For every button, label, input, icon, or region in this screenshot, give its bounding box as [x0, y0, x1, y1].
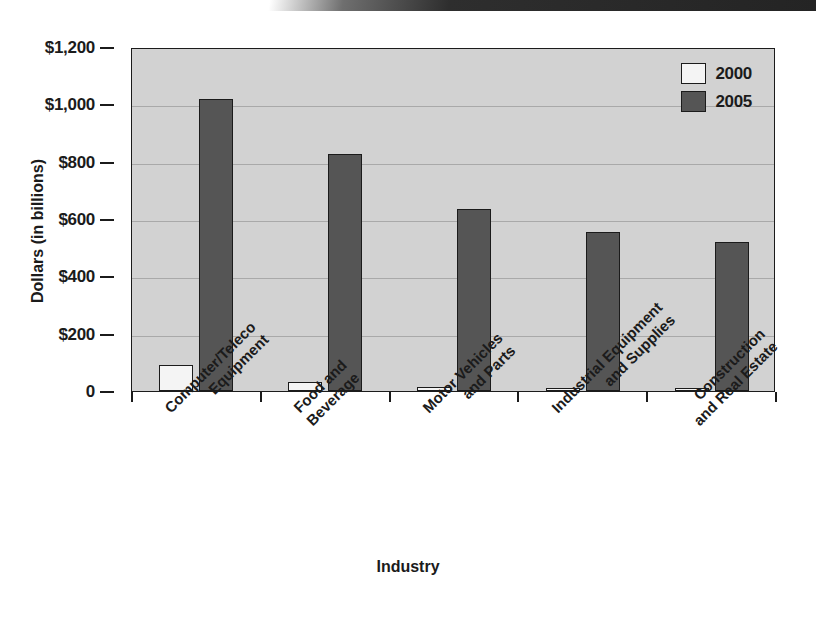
x-axis-title: Industry	[0, 558, 816, 576]
y-tick-label: $1,000	[45, 95, 95, 115]
legend-swatch-2000-icon	[681, 63, 706, 84]
y-tick-mark	[100, 276, 114, 278]
y-tick-label: $1,200	[45, 38, 95, 58]
y-tick-mark	[100, 219, 114, 221]
legend-label-2000: 2000	[715, 64, 752, 84]
x-tick-mark	[260, 392, 262, 402]
legend-item-2000: 2000	[681, 63, 752, 84]
y-tick-label: $800	[58, 153, 95, 173]
y-tick-mark	[100, 47, 114, 49]
y-tick-label: $400	[58, 267, 95, 287]
y-tick-label: 0	[86, 382, 95, 402]
x-tick-mark	[775, 392, 777, 402]
legend: 2000 2005	[681, 63, 752, 112]
y-tick-mark	[100, 104, 114, 106]
bar-2005-2	[328, 154, 362, 391]
x-tick-mark	[389, 392, 391, 402]
y-tick-mark	[100, 334, 114, 336]
y-tick-mark	[100, 162, 114, 164]
legend-label-2005: 2005	[715, 92, 752, 112]
y-tick-label: $200	[58, 325, 95, 345]
y-tick-mark	[100, 391, 114, 393]
legend-swatch-2005-icon	[681, 91, 706, 112]
x-tick-mark	[131, 392, 133, 402]
y-axis: 0$200$400$600$800$1,000$1,200	[0, 0, 131, 470]
bar-chart-figure: 0$200$400$600$800$1,000$1,200 Dollars (i…	[0, 0, 816, 619]
legend-item-2005: 2005	[681, 91, 752, 112]
x-tick-mark	[646, 392, 648, 402]
x-tick-mark	[517, 392, 519, 402]
y-tick-label: $600	[58, 210, 95, 230]
y-axis-title: Dollars (in billions)	[29, 101, 47, 361]
